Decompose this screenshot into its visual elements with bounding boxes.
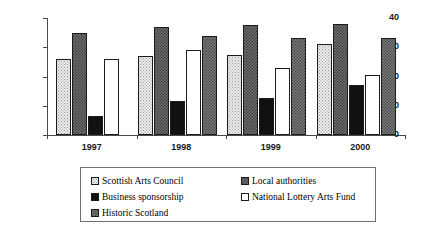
category-label-1999: 1999	[241, 142, 301, 152]
legend-label: National Lottery Arts Fund	[252, 192, 355, 202]
legend-swatch-icon	[91, 177, 99, 185]
y-tick	[43, 106, 47, 107]
bar	[88, 116, 103, 135]
y-tick	[43, 47, 47, 48]
bar	[170, 101, 185, 135]
category-tick	[316, 135, 317, 139]
legend-swatch-icon	[91, 193, 99, 201]
legend-item[interactable]: Business sponsorship	[91, 189, 236, 204]
legend-label: Historic Scotland	[102, 208, 168, 218]
y-axis-line	[47, 18, 48, 135]
category-label-1998: 1998	[151, 142, 211, 152]
legend-item[interactable]: National Lottery Arts Fund	[241, 189, 373, 204]
bar-group	[227, 18, 306, 135]
bar	[365, 75, 380, 135]
bar	[72, 33, 87, 135]
legend-label: Scottish Arts Council	[102, 176, 183, 186]
legend-swatch-icon	[241, 193, 249, 201]
legend-item[interactable]: Local authorities	[241, 173, 373, 188]
bar	[202, 36, 217, 135]
y-tick	[43, 77, 47, 78]
bar	[56, 59, 71, 135]
legend-column-left: Scottish Arts CouncilBusiness sponsorshi…	[91, 173, 236, 221]
bar	[259, 98, 274, 135]
legend-label: Business sponsorship	[102, 192, 184, 202]
category-tick	[137, 135, 138, 139]
bar	[275, 68, 290, 135]
bar	[317, 44, 332, 135]
category-tick	[47, 135, 48, 139]
legend-swatch-icon	[91, 209, 99, 217]
legend-item[interactable]: Historic Scotland	[91, 205, 236, 220]
bar	[104, 59, 119, 135]
legend-column-right: Local authoritiesNational Lottery Arts F…	[241, 173, 373, 205]
bar	[138, 56, 153, 135]
bar	[154, 27, 169, 135]
bar	[186, 50, 201, 135]
legend-label: Local authorities	[252, 176, 316, 186]
category-label-2000: 2000	[330, 142, 390, 152]
bar-group	[56, 18, 119, 135]
bar	[333, 24, 348, 135]
bar	[291, 38, 306, 135]
chart-legend: Scottish Arts CouncilBusiness sponsorshi…	[80, 167, 376, 222]
bar-group	[138, 18, 217, 135]
y-tick	[43, 18, 47, 19]
plot-area: 010203040 1997199819992000	[47, 18, 405, 135]
bar-chart-figure: 010203040 1997199819992000 Scottish Arts…	[0, 0, 428, 235]
bar	[227, 55, 242, 135]
bar	[381, 38, 396, 135]
legend-swatch-icon	[241, 177, 249, 185]
category-label-1997: 1997	[62, 142, 122, 152]
category-tick	[226, 135, 227, 139]
bar	[349, 85, 364, 135]
legend-item[interactable]: Scottish Arts Council	[91, 173, 236, 188]
bar	[243, 25, 258, 135]
category-tick	[405, 135, 406, 139]
bar-group	[317, 18, 396, 135]
